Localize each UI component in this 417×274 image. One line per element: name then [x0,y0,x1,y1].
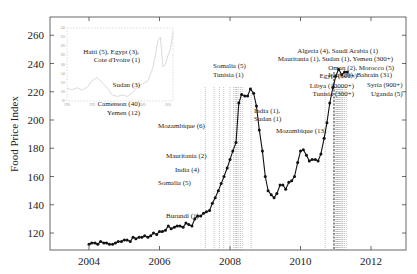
inset-x-tick-label: 2005 [140,103,147,107]
data-point [249,87,252,90]
annotation-label: Haiti (5), Egypt (3), [83,48,139,56]
data-point [293,175,296,178]
inset-x-tick-label: 2010 [165,103,172,107]
data-point [314,158,317,161]
data-point [296,161,299,164]
annotation-label: Yemen (12) [107,109,141,117]
y-tick-label: 260 [28,29,45,41]
inset-x-tick-label: 1990 [64,103,71,107]
data-point [275,192,278,195]
data-point [178,224,181,227]
data-point [226,167,229,170]
inset-x-tick-label: 1995 [89,103,96,107]
data-point [143,234,146,237]
data-point [205,210,208,213]
annotation-label: India (1), [254,107,280,115]
data-point [111,243,114,246]
x-tick-label: 2008 [219,255,242,267]
x-tick-label: 2010 [290,255,313,267]
annotation-label: Tunisia (1) [213,71,244,79]
data-point [323,137,326,140]
data-point [302,148,305,151]
data-point [240,93,243,96]
data-point [126,239,129,242]
data-point [173,226,176,229]
data-point [190,224,193,227]
annotation-label: Mozambique (6) [158,122,206,130]
data-point [170,227,173,230]
inset-y-tick-label: 220 [61,35,66,39]
annotation-label: Burundi (1) [166,212,200,220]
inset-y-tick-label: 160 [61,63,66,67]
data-point [184,222,187,225]
annotation-label: Somalia (5) [158,179,192,187]
data-point [311,158,314,161]
data-point [114,241,117,244]
data-point [93,241,96,244]
annotation-label: Iraq (29), Bahrain (31) [328,71,392,79]
data-point [108,243,111,246]
data-point [96,243,99,246]
data-point [99,240,102,243]
data-point [308,159,311,162]
annotation-label: India (4) [175,166,200,174]
y-tick-label: 160 [28,171,45,183]
y-tick-label: 140 [28,199,45,211]
data-point [105,241,108,244]
annotation-label: Syria (900+) [367,81,403,89]
data-point [223,175,226,178]
annotation-label: Somalia (5) [213,62,247,70]
data-point [164,229,167,232]
data-point [319,152,322,155]
inset-y-tick-label: 180 [61,53,66,57]
data-point [237,102,240,105]
data-point [258,128,261,131]
annotation-label: Mauritania (2) [166,152,207,160]
data-point [146,236,149,239]
inset-y-tick-label: 140 [61,72,66,76]
data-point [252,92,255,95]
data-point [117,240,120,243]
data-point [229,158,232,161]
annotation-label: Tunisia (300+) [312,90,354,98]
inset-y-tick-label: 100 [61,90,66,94]
inset-chart: 8010012014016018020022024019901995200020… [61,26,174,107]
y-tick-label: 240 [28,58,45,70]
data-point [208,209,211,212]
data-point [140,236,143,239]
data-point [199,215,202,218]
data-point [231,150,234,153]
inset-y-tick-label: 200 [61,44,66,48]
data-point [290,179,293,182]
y-axis-title: Food Price Index [8,96,20,172]
annotation-label: Libya (10000+) [310,82,355,90]
data-point [149,234,152,237]
data-point [317,159,320,162]
data-point [155,233,158,236]
inset-frame [67,28,173,101]
data-point [243,94,246,97]
annotation-label: Oman (2), Morocco (5) [328,64,394,72]
data-point [246,94,249,97]
data-point [261,150,264,153]
data-point [270,193,273,196]
data-point [134,237,137,240]
data-point [284,188,287,191]
annotation-label: Mozambique (13) [276,127,327,135]
x-tick-label: 2004 [78,255,101,267]
data-point [273,196,276,199]
annotation-label: Cote d'Ivoire (1) [94,56,141,64]
data-point [88,243,91,246]
y-tick-label: 220 [28,86,45,98]
annotation-label: Sudan (1) [254,115,282,123]
data-point [267,189,270,192]
food-price-chart: 8010012014016018020022024019901995200020… [0,0,417,274]
annotation-label: Mauritania (1), Sudan (1), Yemen (300+) [278,55,394,63]
data-point [152,232,155,235]
data-point [328,102,331,105]
data-point [305,154,308,157]
data-point [90,241,93,244]
data-point [182,226,185,229]
data-point [187,223,190,226]
y-tick-label: 180 [28,142,45,154]
